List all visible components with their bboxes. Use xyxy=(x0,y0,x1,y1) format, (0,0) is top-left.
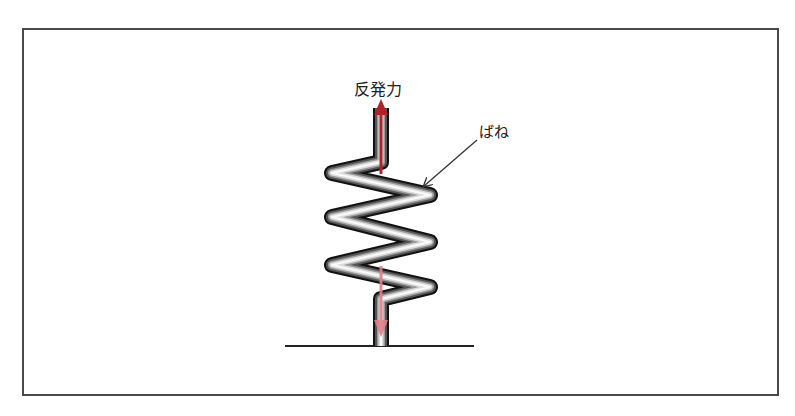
reaction-force-label: 反発力 xyxy=(354,76,402,100)
spring-diagram xyxy=(0,0,795,416)
spring-label: ばね xyxy=(479,120,509,141)
spring-leader-line xyxy=(424,140,477,186)
